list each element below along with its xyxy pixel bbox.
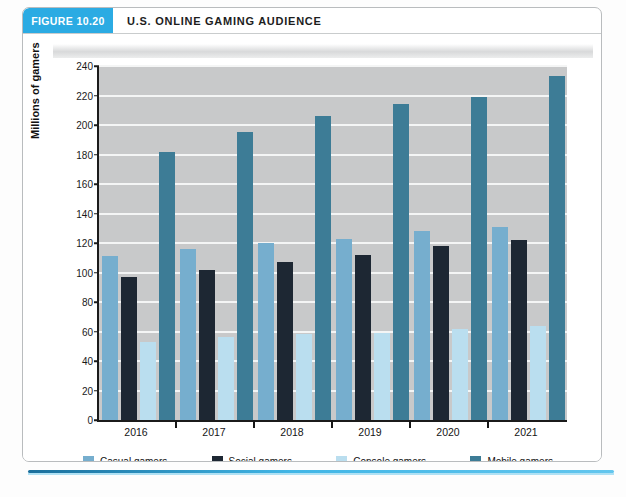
y-tick-label: 100 [76, 267, 93, 278]
legend-swatch-icon [212, 456, 223, 462]
bottom-rule-secondary [28, 473, 614, 475]
y-tick-label: 200 [76, 120, 93, 131]
x-axis-tick-label: 2017 [175, 426, 253, 438]
x-axis-tick-label: 2020 [409, 426, 487, 438]
figure-number-badge: FIGURE 10.20 [23, 8, 113, 33]
figure-page: FIGURE 10.20 U.S. ONLINE GAMING AUDIENCE… [0, 0, 626, 497]
y-tick-label: 180 [76, 149, 93, 160]
y-axis-label: Millions of gamers [29, 42, 41, 139]
bar [433, 246, 449, 420]
bar [355, 255, 371, 420]
bar [237, 132, 253, 420]
legend-item[interactable]: Mobile gamers [470, 456, 553, 462]
bar [549, 76, 565, 420]
x-axis-tick-label: 2018 [253, 426, 331, 438]
legend-swatch-icon [336, 456, 347, 462]
bar [393, 104, 409, 420]
bar [296, 334, 312, 420]
bar [199, 270, 215, 420]
bar [414, 231, 430, 420]
bar [492, 227, 508, 420]
bar [511, 240, 527, 420]
scan-band [53, 44, 593, 58]
figure-header: FIGURE 10.20 U.S. ONLINE GAMING AUDIENCE [23, 8, 601, 34]
y-tick-label: 60 [82, 326, 93, 337]
legend-item[interactable]: Console gamers [336, 456, 426, 462]
x-axis-tick-label: 2016 [97, 426, 175, 438]
bar [121, 277, 137, 420]
bar [315, 116, 331, 420]
figure-title: U.S. ONLINE GAMING AUDIENCE [113, 8, 601, 33]
figure-card: FIGURE 10.20 U.S. ONLINE GAMING AUDIENCE… [22, 7, 602, 462]
bar-group [333, 66, 411, 420]
legend-swatch-icon [470, 456, 481, 462]
y-tick-label: 220 [76, 90, 93, 101]
x-axis-tick-label: 2021 [487, 426, 565, 438]
bar [374, 333, 390, 420]
bar-group [411, 66, 489, 420]
legend-swatch-icon [83, 456, 94, 462]
legend-label: Mobile gamers [487, 456, 553, 462]
bar-group [489, 66, 567, 420]
chart-legend: Casual gamersSocial gamersConsole gamers… [83, 456, 553, 462]
y-tick-label: 0 [87, 415, 93, 426]
bar-groups [99, 66, 567, 420]
y-tick-label: 20 [82, 385, 93, 396]
legend-label: Casual gamers [100, 456, 167, 462]
bar-group [255, 66, 333, 420]
legend-label: Social gamers [229, 456, 292, 462]
bar [180, 249, 196, 420]
bar [140, 342, 156, 420]
y-tick-label: 140 [76, 208, 93, 219]
bar [336, 239, 352, 420]
legend-item[interactable]: Social gamers [212, 456, 292, 462]
plot-area: 020406080100120140160180200220240 [97, 66, 567, 422]
legend-label: Console gamers [353, 456, 426, 462]
y-tick-label: 80 [82, 297, 93, 308]
bar [452, 329, 468, 420]
y-tick-label: 240 [76, 61, 93, 72]
bar [258, 243, 274, 420]
y-tick-label: 160 [76, 179, 93, 190]
y-tick-label: 120 [76, 238, 93, 249]
x-axis-tick-label: 2019 [331, 426, 409, 438]
y-tick-label: 40 [82, 356, 93, 367]
bar [159, 152, 175, 420]
legend-item[interactable]: Casual gamers [83, 456, 167, 462]
bar [530, 326, 546, 420]
chart-body: Millions of gamers 020406080100120140160… [23, 34, 601, 461]
x-axis-labels: 201620172018201920202021 [97, 426, 565, 438]
bar [218, 337, 234, 420]
bar-group [177, 66, 255, 420]
bar-group [99, 66, 177, 420]
bar [102, 256, 118, 420]
bar [277, 262, 293, 420]
bar [471, 97, 487, 420]
